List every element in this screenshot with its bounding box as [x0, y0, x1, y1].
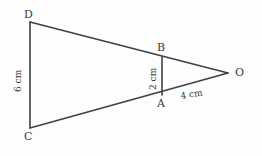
segment-co	[30, 73, 228, 128]
diagram-canvas	[0, 0, 262, 156]
vertex-label-c: C	[24, 131, 32, 142]
measure-label-ab: 2 cm	[149, 68, 158, 90]
vertex-label-a: A	[157, 98, 165, 109]
vertex-label-b: B	[157, 42, 165, 53]
segment-do	[30, 22, 228, 73]
measure-label-cd: 6 cm	[14, 70, 23, 92]
geometry-figure: D C B A O 6 cm 2 cm 4 cm	[0, 0, 262, 156]
vertex-label-o: O	[235, 67, 244, 78]
vertex-label-d: D	[24, 9, 33, 20]
